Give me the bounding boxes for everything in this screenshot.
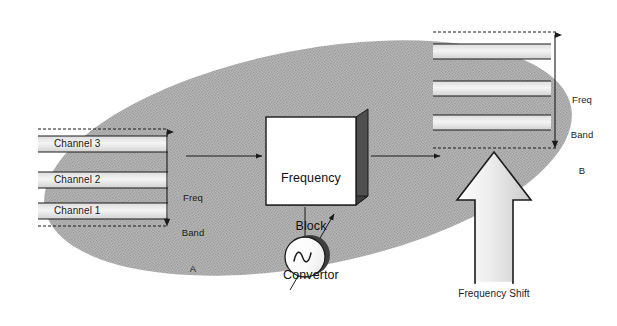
output-channel-bar-1 [433,115,551,130]
output-channel-bar-2 [433,81,551,96]
freq-band-b-label: Freq Band B [561,70,603,201]
convertor-label-line-3: Convertor [266,267,356,283]
freq-band-b-label-line-1: Freq [561,94,603,106]
convertor-label-line-2: Block [266,218,356,234]
freq-band-b-label-line-2: Band [561,129,603,141]
output-channel-bar-3 [433,44,551,59]
convertor-label-line-1: Frequency [266,170,356,186]
input-channel-label-3: Channel 3 [54,138,101,149]
freq-band-a-label-line-2: Band [173,227,213,239]
freq-band-a-label-line-1: Freq [173,192,213,204]
frequency-block-convertor-diagram: Channel 3 Channel 2 Channel 1 Freq Band … [0,0,617,326]
freq-band-b-label-line-3: B [561,165,603,177]
frequency-shift-label: Frequency Shift [424,288,564,299]
input-channel-label-1: Channel 1 [54,205,101,216]
input-channel-label-2: Channel 2 [54,174,101,185]
freq-band-a-label-line-3: A [173,263,213,275]
convertor-box-label: Frequency Block Convertor [266,137,356,316]
freq-band-a-label: Freq Band A [173,168,213,299]
